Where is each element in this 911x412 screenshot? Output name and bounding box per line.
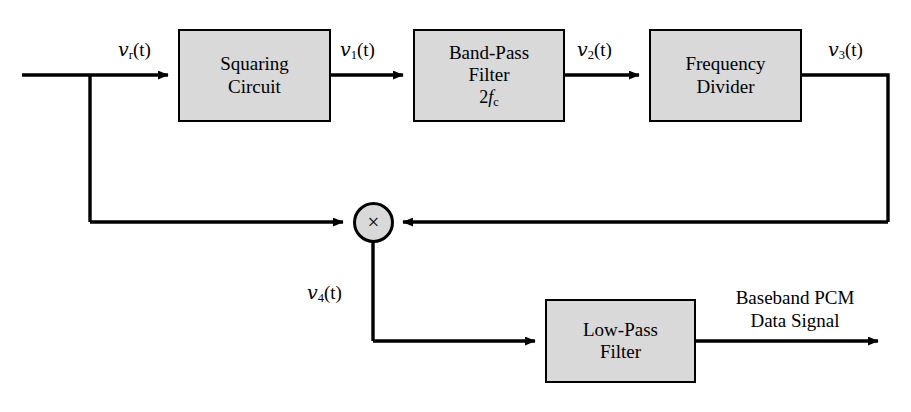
- block-sublabel-band-pass-filter: 2fc: [479, 87, 498, 109]
- signal-suffix-v-3: (t): [845, 39, 863, 60]
- signal-label-v-4: v4(t): [307, 281, 342, 306]
- block-label-squaring-circuit: Squaring Circuit: [220, 53, 289, 98]
- signal-suffix-v-4: (t): [324, 282, 342, 303]
- signal-suffix-v-1: (t): [357, 39, 375, 60]
- bpf-frequency-subscript: c: [493, 95, 498, 109]
- block-label-band-pass-filter: Band-Pass Filter: [449, 42, 529, 87]
- bpf-multiplier-value: 2: [479, 87, 488, 107]
- block-label-low-pass-filter: Low-Pass Filter: [583, 319, 658, 364]
- block-label-frequency-divider: Frequency Divider: [685, 53, 765, 98]
- signal-label-v-r: vr(t): [118, 38, 151, 63]
- signal-label-v-3: v3(t): [828, 38, 863, 63]
- wire-divider-feedback: [802, 75, 888, 222]
- block-squaring-circuit[interactable]: Squaring Circuit: [178, 29, 331, 122]
- signal-var-v-4: v: [307, 281, 318, 303]
- signal-var-v-1: v: [340, 38, 351, 60]
- signal-suffix-v-2: (t): [594, 39, 612, 60]
- block-frequency-divider[interactable]: Frequency Divider: [649, 29, 802, 122]
- signal-suffix-v-r: (t): [133, 39, 151, 60]
- signal-var-v-r: v: [118, 38, 129, 60]
- multiplier-node[interactable]: ×: [353, 202, 394, 243]
- signal-var-v-3: v: [828, 38, 839, 60]
- block-band-pass-filter[interactable]: Band-Pass Filter 2fc: [413, 29, 565, 122]
- signal-var-v-2: v: [577, 38, 588, 60]
- multiply-icon: ×: [368, 212, 380, 233]
- block-low-pass-filter[interactable]: Low-Pass Filter: [545, 299, 696, 383]
- signal-label-v-1: v1(t): [340, 38, 375, 63]
- signal-label-v-2: v2(t): [577, 38, 612, 63]
- baseband-pcm-output-label: Baseband PCM Data Signal: [700, 287, 890, 333]
